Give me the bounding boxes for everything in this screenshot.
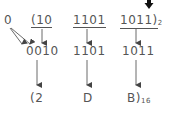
binary-group-3: 1011) — [120, 13, 158, 29]
padded-group-2: 1101 — [73, 45, 106, 57]
binary-to-hex-diagram: 0 (10 1101 1011)2 0010 1101 1011 (2 D B)… — [0, 0, 177, 116]
hex-digit-3: B) — [127, 91, 141, 105]
hex-digit-2: D — [83, 92, 93, 104]
pad-zero: 0 — [4, 14, 12, 26]
binary-group-2: 1101 — [73, 14, 106, 28]
hex-base: 16 — [141, 97, 151, 105]
hex-digit-3-wrap: B)16 — [127, 92, 151, 107]
top-down-arrow-icon — [145, 0, 154, 9]
hex-digit-1: (2 — [30, 92, 43, 104]
binary-base: 2 — [158, 19, 163, 27]
binary-group-1: (10 — [31, 14, 52, 28]
padded-group-3: 1011 — [122, 45, 155, 57]
padded-group-1: 0010 — [26, 45, 59, 57]
binary-group-3-wrap: 1011)2 — [120, 14, 163, 29]
